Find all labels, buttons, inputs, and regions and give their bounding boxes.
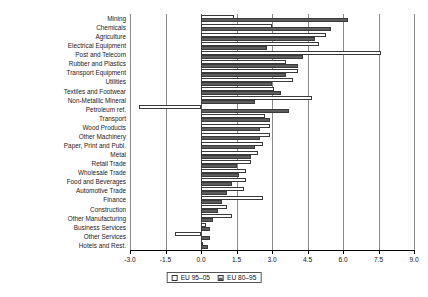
bar-eu-80-95 [201, 91, 281, 95]
x-tick [166, 250, 167, 254]
bar-group [130, 32, 414, 41]
category-label: Textiles and Footwear [64, 88, 126, 95]
bar-group [130, 196, 414, 205]
category-label: Wholesale Trade [78, 169, 126, 176]
bar-group [130, 132, 414, 141]
category-label: Construction [90, 206, 126, 213]
legend-swatch-icon [218, 275, 224, 281]
bar-group [130, 141, 414, 150]
category-label: Finance [103, 196, 126, 203]
bar-eu-80-95 [201, 55, 303, 59]
bar-eu-80-95 [201, 227, 210, 231]
x-tick [379, 250, 380, 254]
bar-eu-80-95 [201, 27, 331, 31]
bar-group [130, 123, 414, 132]
legend-swatch-icon [172, 275, 178, 281]
bar-eu-80-95 [201, 191, 227, 195]
legend-label: EU 95–05 [181, 274, 210, 281]
chart-legend: EU 95–05EU 80–95 [167, 272, 262, 283]
bar-eu-80-95 [201, 209, 218, 213]
bar-eu-80-95 [201, 155, 251, 159]
bar-eu-80-95 [201, 109, 289, 113]
bar-group [130, 214, 414, 223]
category-label: Agriculture [95, 33, 126, 40]
category-label: Other Services [84, 233, 126, 240]
x-tick-label: -1.5 [160, 256, 171, 263]
legend-item: EU 95–05 [172, 274, 210, 281]
x-tick-label: -3.0 [124, 256, 135, 263]
bar-group [130, 168, 414, 177]
category-label: Mining [107, 15, 126, 22]
bar-group [130, 223, 414, 232]
category-label: Paper, Print and Publ. [64, 142, 126, 149]
bar-group [130, 205, 414, 214]
bar-eu-80-95 [201, 245, 208, 249]
category-label: Wood Products [82, 124, 126, 131]
category-label: Non-Metallic Mineral [68, 97, 126, 104]
bar-group [130, 41, 414, 50]
bar-group [130, 159, 414, 168]
x-tick-label: 7.5 [374, 256, 383, 263]
bar-eu-80-95 [201, 136, 260, 140]
bar-eu-80-95 [201, 37, 315, 41]
bar-eu-80-95 [201, 200, 222, 204]
x-tick-label: 6.0 [338, 256, 347, 263]
x-tick [414, 250, 415, 254]
bar-eu-80-95 [201, 218, 213, 222]
x-tick-label: 3.0 [267, 256, 276, 263]
bar-group [130, 186, 414, 195]
category-label: Metal [110, 151, 126, 158]
bar-eu-80-95 [201, 64, 298, 68]
category-label: Automotive Trade [76, 187, 126, 194]
gridline [414, 14, 415, 250]
bar-eu-80-95 [201, 173, 239, 177]
category-label: Chemicals [96, 24, 126, 31]
legend-item: EU 80–95 [218, 274, 256, 281]
bar-eu-95-05 [175, 232, 201, 236]
bar-eu-80-95 [201, 145, 255, 149]
category-label: Other Manufacturing [68, 215, 126, 222]
bar-eu-80-95 [201, 18, 348, 22]
x-tick-label: 0.0 [196, 256, 205, 263]
bar-group [130, 105, 414, 114]
bar-eu-80-95 [201, 100, 255, 104]
bar-eu-80-95 [201, 127, 260, 131]
bar-eu-80-95 [201, 236, 210, 240]
category-label: Post and Telecom [75, 51, 126, 58]
plot-area [130, 14, 414, 250]
category-label: Petroleum ref. [86, 106, 126, 113]
bar-eu-80-95 [201, 46, 267, 50]
category-label: Utilities [105, 78, 126, 85]
category-label: Other Machinery [79, 133, 126, 140]
bar-eu-80-95 [201, 73, 286, 77]
bar-eu-80-95 [201, 118, 270, 122]
x-tick [343, 250, 344, 254]
legend-label: EU 80–95 [227, 274, 256, 281]
x-tick [237, 250, 238, 254]
category-label: Business Services [74, 224, 126, 231]
bar-group [130, 23, 414, 32]
category-label: Hotels and Rest. [79, 242, 126, 249]
bar-group [130, 68, 414, 77]
category-label: Transport [99, 115, 126, 122]
bar-group [130, 50, 414, 59]
category-label: Electrical Equipment [68, 42, 126, 49]
bar-group [130, 59, 414, 68]
category-label: Retail Trade [92, 160, 126, 167]
category-axis-labels: MiningChemicalsAgricultureElectrical Equ… [0, 0, 128, 250]
bar-eu-95-05 [139, 105, 201, 109]
bar-group [130, 241, 414, 250]
bar-group [130, 232, 414, 241]
category-label: Food and Beverages [67, 178, 126, 185]
bar-eu-80-95 [201, 82, 272, 86]
bar-group [130, 87, 414, 96]
category-label: Rubber and Plastics [69, 60, 126, 67]
bar-group [130, 150, 414, 159]
bar-group [130, 78, 414, 87]
x-tick-label: 4.5 [303, 256, 312, 263]
bar-group [130, 177, 414, 186]
x-tick-label: 9.0 [409, 256, 418, 263]
x-tick [201, 250, 202, 254]
category-label: Transport Equipment [67, 69, 126, 76]
bar-group [130, 96, 414, 105]
